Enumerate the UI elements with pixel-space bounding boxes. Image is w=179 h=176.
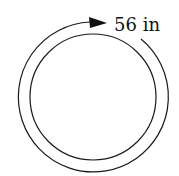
- inner-circle: [30, 34, 156, 160]
- circumference-label: 56 in: [114, 14, 160, 35]
- arrowhead-icon: [89, 17, 107, 28]
- circle-diagram: 56 in: [0, 0, 179, 176]
- outer-arc: [18, 22, 168, 172]
